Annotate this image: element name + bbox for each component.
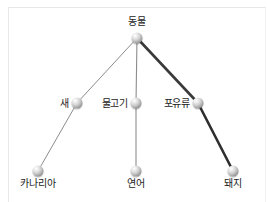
node-label-pig: 돼지 [224,178,242,189]
node-pig[interactable] [228,166,239,177]
edge-animal-fish [136,38,137,103]
node-label-canary: 카나리아 [20,178,55,189]
edge-mammal-pig [198,103,233,171]
node-mammal[interactable] [193,98,204,109]
node-label-mammal: 포유류 [164,98,190,109]
node-animal[interactable] [132,33,143,44]
node-fish[interactable] [131,98,142,109]
node-label-animal: 동물 [128,16,146,27]
edge-bird-canary [38,103,77,171]
node-label-salmon: 연어 [127,178,145,189]
node-bird[interactable] [72,98,83,109]
node-canary[interactable] [33,166,44,177]
node-label-fish: 물고기 [102,98,128,109]
node-label-bird: 새 [60,98,69,109]
edge-animal-mammal [137,38,198,103]
node-salmon[interactable] [131,166,142,177]
diagram-canvas: 동물새물고기포유류카나리아연어돼지 [0,0,267,202]
edge-animal-bird [77,38,137,103]
